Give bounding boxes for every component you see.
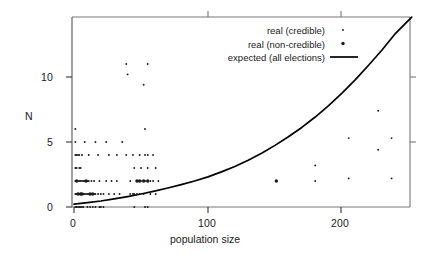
data-point bbox=[144, 128, 146, 130]
data-point bbox=[121, 141, 123, 143]
data-point bbox=[91, 192, 94, 195]
data-point bbox=[391, 177, 393, 179]
data-point bbox=[116, 180, 118, 182]
data-point bbox=[138, 179, 141, 182]
y-tick-label-10: 10 bbox=[41, 71, 53, 83]
data-point bbox=[132, 154, 134, 156]
data-point bbox=[116, 154, 118, 156]
legend-label-non-credible: real (non-credible) bbox=[180, 39, 325, 50]
data-point bbox=[348, 137, 350, 139]
data-point bbox=[93, 180, 95, 182]
data-point bbox=[129, 180, 131, 182]
data-point bbox=[74, 128, 76, 130]
data-point bbox=[152, 180, 154, 182]
data-point bbox=[75, 179, 78, 182]
data-point bbox=[133, 206, 135, 208]
data-point bbox=[149, 180, 151, 182]
data-point bbox=[84, 141, 86, 143]
data-point bbox=[97, 154, 99, 156]
data-point bbox=[144, 154, 146, 156]
non-credible-points bbox=[75, 179, 278, 195]
data-point bbox=[377, 149, 379, 151]
data-point bbox=[152, 154, 154, 156]
data-point bbox=[133, 167, 135, 169]
data-point bbox=[103, 193, 105, 195]
data-point bbox=[155, 167, 157, 169]
data-point bbox=[157, 180, 159, 182]
data-point bbox=[133, 193, 135, 195]
data-point bbox=[142, 179, 145, 182]
data-point bbox=[377, 110, 379, 112]
data-point bbox=[94, 206, 96, 208]
data-point bbox=[108, 154, 110, 156]
data-point bbox=[74, 141, 76, 143]
data-point bbox=[76, 167, 78, 169]
data-point bbox=[105, 180, 107, 182]
data-point bbox=[391, 137, 393, 139]
data-point bbox=[94, 141, 96, 143]
x-tick-label-0: 0 bbox=[70, 217, 76, 229]
data-point bbox=[111, 180, 113, 182]
data-point bbox=[81, 154, 83, 156]
data-point bbox=[129, 193, 131, 195]
data-point bbox=[348, 177, 350, 179]
data-point bbox=[149, 193, 151, 195]
data-point bbox=[143, 193, 145, 195]
data-point bbox=[100, 206, 102, 208]
data-point bbox=[155, 193, 157, 195]
data-point bbox=[136, 193, 138, 195]
data-point bbox=[86, 206, 88, 208]
y-axis-label: N bbox=[25, 110, 33, 122]
data-point bbox=[88, 154, 90, 156]
data-point bbox=[147, 167, 149, 169]
y-tick-label-0: 0 bbox=[47, 201, 53, 213]
data-point bbox=[94, 193, 96, 195]
data-point bbox=[139, 193, 141, 195]
y-tick-label-5: 5 bbox=[47, 136, 53, 148]
data-point bbox=[103, 206, 105, 208]
data-point bbox=[125, 63, 127, 65]
credible-points bbox=[74, 63, 392, 208]
data-point bbox=[88, 180, 90, 182]
data-point bbox=[275, 179, 278, 182]
data-point bbox=[80, 167, 82, 169]
x-axis-label: population size bbox=[170, 233, 240, 245]
legend-label-expected: expected (all elections) bbox=[160, 52, 325, 63]
data-point bbox=[82, 206, 84, 208]
data-point bbox=[140, 167, 142, 169]
data-point bbox=[147, 63, 149, 65]
data-point bbox=[314, 180, 316, 182]
data-point bbox=[147, 206, 149, 208]
data-point bbox=[146, 179, 149, 182]
data-point bbox=[144, 206, 146, 208]
data-point bbox=[89, 206, 91, 208]
legend-markers bbox=[330, 29, 358, 57]
data-point bbox=[84, 179, 87, 182]
chart-figure: 0 5 10 N 0 100 200 population size real … bbox=[0, 0, 434, 256]
data-point bbox=[80, 192, 83, 195]
data-point bbox=[92, 206, 94, 208]
data-point bbox=[127, 73, 129, 75]
legend-label-credible: real (credible) bbox=[180, 25, 325, 36]
data-point bbox=[125, 154, 127, 156]
data-point bbox=[105, 141, 107, 143]
data-point bbox=[113, 193, 115, 195]
x-tick-label-100: 100 bbox=[198, 217, 216, 229]
data-point bbox=[119, 193, 121, 195]
data-point bbox=[97, 193, 99, 195]
data-point bbox=[139, 154, 141, 156]
data-point bbox=[314, 164, 316, 166]
data-point bbox=[147, 154, 149, 156]
x-tick-label-200: 200 bbox=[331, 217, 349, 229]
data-point bbox=[99, 180, 101, 182]
data-point bbox=[100, 193, 102, 195]
data-point bbox=[108, 193, 110, 195]
data-point bbox=[143, 84, 145, 86]
data-point bbox=[90, 180, 92, 182]
data-point bbox=[78, 154, 80, 156]
